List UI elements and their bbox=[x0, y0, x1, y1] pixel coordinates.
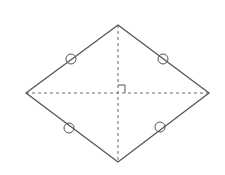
rhombus-diagram bbox=[0, 0, 225, 175]
right-angle-marker bbox=[118, 85, 125, 93]
